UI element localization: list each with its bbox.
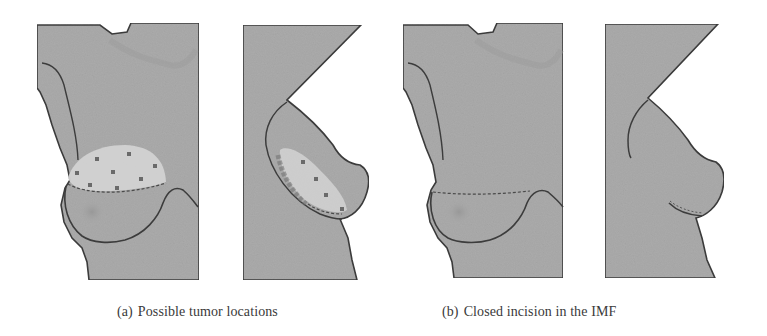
torso-side-silhouette (243, 25, 369, 280)
panel-b-frontal-view (403, 23, 563, 278)
caption-a: (a)Possible tumor locations (117, 304, 278, 320)
caption-b-tag: (b) (442, 304, 459, 319)
caption-a-text: Possible tumor locations (138, 304, 278, 319)
panel-b-lateral-view (605, 24, 724, 278)
panel-a-lateral-view (243, 25, 369, 280)
figure-illustration (0, 0, 767, 336)
torso-silhouette (403, 23, 563, 278)
areola (78, 199, 106, 225)
areola (445, 199, 473, 225)
caption-b: (b)Closed incision in the IMF (442, 304, 616, 320)
panel-a-frontal-view (37, 23, 199, 280)
caption-a-tag: (a) (117, 304, 133, 319)
torso-side-silhouette (605, 24, 724, 278)
caption-b-text: Closed incision in the IMF (464, 304, 617, 319)
